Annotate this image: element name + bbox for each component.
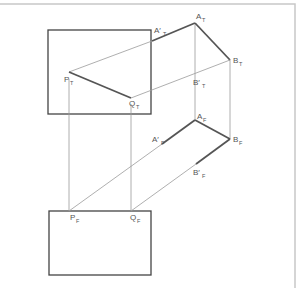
svg-text:B: B (233, 56, 238, 65)
svg-text:T: T (136, 104, 140, 110)
svg-text:Q: Q (129, 99, 135, 108)
label-b-f: B F (233, 135, 243, 146)
label-b-t: B T (233, 56, 243, 67)
projection-diagram: A′ T A T B T B′ T P T Q T A F A′ F B F B… (0, 0, 306, 288)
label-a1-t: A′ T (154, 26, 167, 37)
svg-text:F: F (76, 218, 80, 224)
line-af-bf (195, 120, 230, 139)
line-at-bt (195, 23, 230, 60)
svg-text:F: F (203, 117, 207, 123)
label-a1-f: A′ F (152, 135, 165, 146)
label-q-f: Q F (130, 213, 141, 224)
line-qf-b1f (131, 164, 196, 211)
svg-text:F: F (239, 140, 243, 146)
svg-text:T: T (70, 80, 74, 86)
label-a-t: A T (196, 12, 206, 23)
label-b1-f: B′ F (193, 168, 206, 179)
svg-text:B′: B′ (193, 78, 200, 87)
svg-text:A′: A′ (152, 135, 159, 144)
line-pt-a1t (69, 41, 152, 72)
top-view-plane (48, 30, 151, 114)
svg-text:T: T (239, 61, 243, 67)
line-b1f-bf (196, 139, 230, 164)
svg-text:F: F (202, 173, 206, 179)
svg-text:Q: Q (130, 213, 136, 222)
svg-text:F: F (137, 218, 141, 224)
svg-text:A′: A′ (154, 26, 161, 35)
line-a1f-af (162, 120, 195, 144)
line-qt-bt (131, 60, 230, 98)
svg-text:P: P (70, 213, 75, 222)
svg-text:T: T (202, 83, 206, 89)
svg-text:B′: B′ (193, 168, 200, 177)
outer-frame (0, 4, 295, 288)
line-pt-qt (69, 72, 131, 98)
svg-text:P: P (64, 75, 69, 84)
svg-text:B: B (233, 135, 238, 144)
svg-text:T: T (202, 17, 206, 23)
line-pf-a1f (69, 144, 162, 211)
label-p-f: P F (70, 213, 80, 224)
